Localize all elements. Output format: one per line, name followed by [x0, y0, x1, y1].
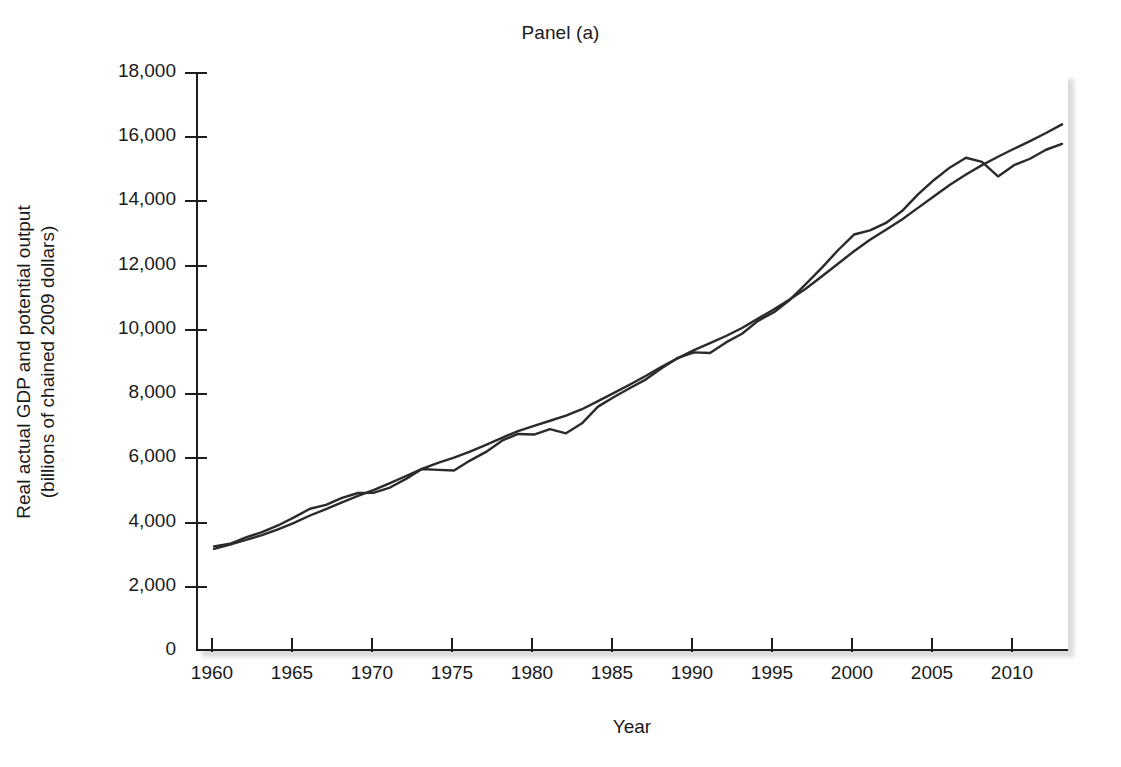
y-axis-tick — [185, 393, 207, 395]
x-axis-tick — [371, 638, 373, 652]
y-axis-tick — [185, 72, 207, 74]
y-axis-tick — [185, 329, 207, 331]
x-axis-tick — [691, 638, 693, 652]
x-axis-tick — [611, 638, 613, 652]
x-axis-tick — [851, 638, 853, 652]
y-axis-label-line1: Real actual GDP and potential output — [13, 205, 34, 518]
x-axis-tick — [211, 638, 213, 652]
x-axis-tick-label: 1990 — [652, 662, 732, 684]
x-axis-tick-label: 1970 — [332, 662, 412, 684]
y-axis-tick-labels: 02,0004,0006,0008,00010,00012,00014,0001… — [52, 0, 176, 767]
x-axis-tick-label: 2010 — [972, 662, 1052, 684]
x-axis-tick — [931, 638, 933, 652]
y-axis-tick-label: 4,000 — [60, 510, 176, 532]
x-axis-tick-label: 2005 — [892, 662, 972, 684]
y-axis-tick-label: 18,000 — [60, 60, 176, 82]
x-axis-tick-label: 1995 — [732, 662, 812, 684]
x-axis-tick — [451, 638, 453, 652]
x-axis-tick-label: 1960 — [172, 662, 252, 684]
plot-area — [196, 73, 1068, 651]
x-axis-tick — [771, 638, 773, 652]
y-axis-tick-label: 12,000 — [60, 253, 176, 275]
y-axis-tick — [185, 522, 207, 524]
y-axis-tick — [185, 457, 207, 459]
y-axis-tick-label: 0 — [60, 638, 176, 660]
figure-panel-a: Panel (a) Real actual GDP and potential … — [0, 0, 1121, 767]
x-axis-tick-label: 1965 — [252, 662, 332, 684]
y-axis-tick — [185, 136, 207, 138]
x-axis-label: Year — [196, 716, 1068, 738]
x-axis-tick-label: 1980 — [492, 662, 572, 684]
y-axis-tick-label: 16,000 — [60, 124, 176, 146]
x-axis-tick-label: 2000 — [812, 662, 892, 684]
y-axis-tick — [185, 265, 207, 267]
x-axis-tick-label: 1985 — [572, 662, 652, 684]
x-axis-tick — [291, 638, 293, 652]
y-axis-tick-label: 10,000 — [60, 317, 176, 339]
y-axis-tick-label: 14,000 — [60, 188, 176, 210]
y-axis-tick-label: 6,000 — [60, 445, 176, 467]
x-axis-tick-label: 1975 — [412, 662, 492, 684]
x-axis-tick — [1011, 638, 1013, 652]
line-potential-output — [214, 124, 1062, 549]
x-axis-tick — [531, 638, 533, 652]
y-axis-tick-label: 8,000 — [60, 381, 176, 403]
chart-lines-svg — [198, 73, 1070, 651]
line-real-actual-gdp — [214, 144, 1062, 546]
y-axis-tick — [185, 200, 207, 202]
y-axis-tick-label: 2,000 — [60, 574, 176, 596]
y-axis-tick — [185, 586, 207, 588]
